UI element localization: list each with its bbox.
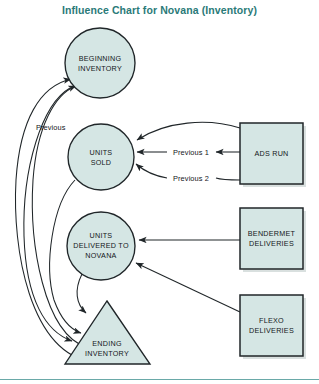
node-units-delivered-to-novana[interactable]: UNITS DELIVERED TO NOVANA xyxy=(67,212,135,280)
node-bendermet-deliveries[interactable]: BENDERMET DELIVERIES xyxy=(240,208,306,272)
node-units-sold[interactable]: UNITS SOLD xyxy=(68,124,134,190)
bendermet-label-line2: DELIVERIES xyxy=(249,239,294,248)
ads-run-label-line1: ADS RUN xyxy=(254,149,288,158)
flexo-label-line1: FLEXO xyxy=(259,316,284,325)
units-sold-label-line2: SOLD xyxy=(91,158,112,167)
units-delivered-label-line3: NOVANA xyxy=(85,251,116,260)
beginning-inventory-label-line2: INVENTORY xyxy=(78,64,122,73)
ending-inventory-label-line1: ENDING xyxy=(92,339,122,348)
beginning-inventory-circle[interactable] xyxy=(65,28,135,98)
beginning-inventory-label-line1: BEGINNING xyxy=(79,54,122,63)
node-ads-run[interactable]: ADS RUN xyxy=(240,123,306,187)
units-delivered-label-line1: UNITS xyxy=(90,231,113,240)
ending-inventory-label-line2: INVENTORY xyxy=(85,349,129,358)
edge-label-previous-2: Previous 2 xyxy=(173,174,209,183)
edge-label-previous: Previous xyxy=(36,123,66,132)
node-beginning-inventory[interactable]: BEGINNING INVENTORY xyxy=(65,28,135,98)
edge-label-previous-1: Previous 1 xyxy=(173,148,209,157)
units-delivered-label-line2: DELIVERED TO xyxy=(73,241,129,250)
flexo-label-line2: DELIVERIES xyxy=(249,326,294,335)
diagram-svg: Influence Chart for Novana (Inventory) xyxy=(0,0,319,384)
node-flexo-deliveries[interactable]: FLEXO DELIVERIES xyxy=(240,295,306,359)
chart-title: Influence Chart for Novana (Inventory) xyxy=(62,4,257,16)
units-sold-circle[interactable] xyxy=(68,124,134,190)
influence-chart-canvas: Influence Chart for Novana (Inventory) xyxy=(0,0,319,384)
units-sold-label-line1: UNITS xyxy=(90,148,113,157)
bendermet-label-line1: BENDERMET xyxy=(248,229,296,238)
